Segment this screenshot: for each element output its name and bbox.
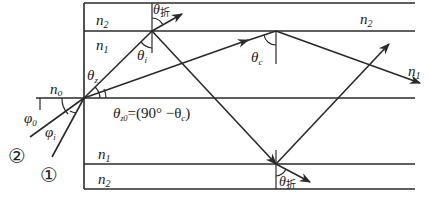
label-theta-i: θi (137, 47, 147, 65)
label-n1-right: n1 (408, 63, 421, 81)
label-theta-z: θz (87, 67, 98, 85)
label-theta-refr-bottom: θ折 (279, 174, 296, 190)
optical-fiber-diagram: n2 n1 n2 n1 no n1 n2 θz θi θc θ折 θ折 θz0=… (0, 0, 428, 209)
label-n2-top-left: n2 (96, 12, 109, 30)
label-ray-1: ① (40, 163, 58, 187)
ray-2-core-cont (246, 31, 276, 41)
label-n2-top-right: n2 (360, 11, 373, 29)
ray-1-incident (52, 98, 84, 157)
label-n0: no (50, 81, 63, 98)
arc-theta-refr-top (152, 18, 163, 25)
ray-1-core-to-top (84, 31, 152, 98)
ray-1-reflected-up (276, 44, 389, 164)
label-theta-refr-top: θ折 (153, 2, 170, 18)
arc-phi-i (70, 111, 76, 113)
ray-2-reflected (276, 31, 420, 83)
label-phi-0: φ0 (24, 110, 37, 128)
label-ray-2: ② (8, 144, 26, 168)
label-phi-i: φi (45, 124, 56, 142)
label-n1-top-left: n1 (96, 37, 109, 55)
label-theta-z0: θz0=(90° −θc) (113, 105, 190, 123)
ray-2-core (84, 40, 248, 98)
arc-theta-c (264, 35, 276, 45)
ray-2-incident (30, 98, 84, 137)
label-theta-c: θc (251, 49, 262, 67)
label-n2-bottom-left: n2 (98, 171, 111, 189)
label-n1-bottom-left: n1 (98, 146, 111, 164)
fiber-structure (36, 3, 415, 189)
